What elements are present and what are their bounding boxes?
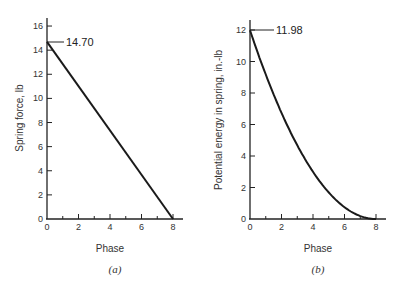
y-tick-label: 14 <box>33 45 43 55</box>
x-tick-label: 8 <box>170 222 175 232</box>
chart-a: 0246810121416 02468 14.70 Spring force, … <box>14 18 183 276</box>
x-tick-label: 0 <box>44 222 49 232</box>
spring-force-line <box>47 42 173 219</box>
y-tick-label: 12 <box>236 25 246 35</box>
annotation-b: 11.98 <box>276 24 303 36</box>
y-tick-label: 12 <box>33 69 43 79</box>
x-tick-label: 0 <box>247 222 252 232</box>
y-tick-label: 4 <box>38 166 43 176</box>
y-tick-label: 6 <box>38 142 43 152</box>
y-tick-label: 0 <box>38 214 43 224</box>
figure: 0246810121416 02468 14.70 Spring force, … <box>0 0 399 292</box>
y-tick-label: 10 <box>236 57 246 67</box>
x-tick-label: 4 <box>310 222 315 232</box>
x-tick-label: 4 <box>107 222 112 232</box>
y-tick-label: 8 <box>241 88 246 98</box>
panel-label-b: (b) <box>312 263 325 276</box>
x-axis-title-b: Phase <box>304 243 333 254</box>
x-tick-label: 2 <box>279 222 284 232</box>
y-tick-label: 0 <box>241 214 246 224</box>
y-tick-label: 6 <box>241 120 246 130</box>
y-tick-label: 8 <box>38 118 43 128</box>
y-tick-label: 4 <box>241 151 246 161</box>
y-axis-title-b: Potential energy in spring, in.-lb <box>213 50 224 191</box>
x-axis-title-a: Phase <box>96 243 125 254</box>
annotation-a: 14.70 <box>66 36 94 48</box>
y-tick-label: 2 <box>241 183 246 193</box>
y-tick-label: 16 <box>33 21 43 31</box>
x-tick-label: 2 <box>76 222 81 232</box>
panel-label-a: (a) <box>109 263 122 276</box>
y-tick-label: 2 <box>38 190 43 200</box>
chart-b: 024681012 02468 11.98 Potential energy i… <box>213 20 386 276</box>
potential-energy-curve <box>250 30 376 219</box>
x-tick-label: 8 <box>373 222 378 232</box>
y-tick-label: 10 <box>33 93 43 103</box>
x-tick-label: 6 <box>342 222 347 232</box>
x-tick-label: 6 <box>139 222 144 232</box>
y-axis-title-a: Spring force, lb <box>14 84 25 152</box>
